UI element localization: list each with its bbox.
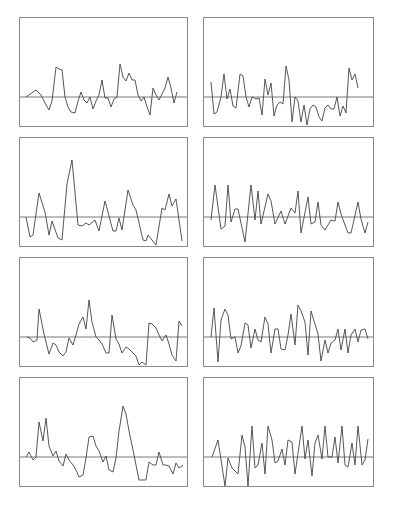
data-series-line (211, 185, 368, 242)
line-plot (204, 378, 373, 486)
line-plot (204, 138, 373, 246)
plot-panel-row4-left (19, 377, 188, 487)
line-plot (20, 378, 187, 486)
line-plot (20, 18, 187, 126)
plot-panel-row2-left (19, 137, 188, 247)
plot-panel-row4-right (203, 377, 374, 487)
data-series-line (26, 64, 177, 115)
plot-panel-row3-left (19, 257, 188, 367)
line-plot (20, 258, 187, 366)
data-series-line (27, 300, 182, 365)
data-series-line (211, 305, 368, 362)
plot-panel-row2-right (203, 137, 374, 247)
plot-panel-row3-right (203, 257, 374, 367)
plot-panel-row1-left (19, 17, 188, 127)
data-series-line (26, 160, 182, 245)
data-series-line (26, 406, 183, 480)
line-plot (204, 18, 373, 126)
line-plot (204, 258, 373, 366)
data-series-line (211, 66, 358, 125)
line-plot (20, 138, 187, 246)
data-series-line (212, 426, 368, 486)
plot-panel-row1-right (203, 17, 374, 127)
